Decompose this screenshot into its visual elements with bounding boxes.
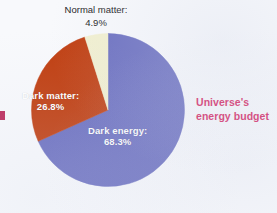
chart-title-line-1: Universe's: [196, 96, 249, 108]
pie-chart-figure: Normal matter: 4.9% Dark matter: 26.8% D…: [0, 0, 277, 213]
dark-matter-label-value: 26.8%: [37, 101, 64, 112]
normal-matter-label-name: Normal matter:: [65, 4, 128, 15]
dark-matter-label-name: Dark matter:: [22, 90, 79, 101]
chart-title: Universe's energy budget: [196, 95, 276, 124]
normal-matter-label-value: 4.9%: [85, 17, 107, 28]
chart-title-line-2: energy budget: [196, 110, 269, 122]
dark-matter-slice-label: Dark matter: 26.8%: [22, 90, 79, 112]
dark-energy-slice-label: Dark energy: 68.3%: [88, 125, 147, 147]
dark-energy-label-value: 68.3%: [104, 136, 131, 147]
normal-matter-callout: Normal matter: 4.9%: [44, 4, 148, 30]
dark-energy-label-name: Dark energy:: [88, 125, 147, 136]
page-edge-artifact: [0, 111, 5, 120]
